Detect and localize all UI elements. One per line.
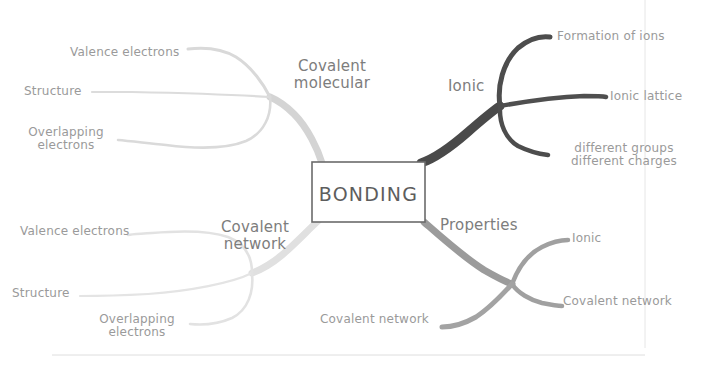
branch-line-ionic-groups — [500, 106, 548, 155]
leaf-label-properties-covalent-network-right[interactable]: Covalent network — [563, 295, 672, 308]
branch-line-properties-covalent-network-bottom — [442, 284, 512, 327]
branch-label-properties[interactable]: Properties — [440, 217, 518, 234]
leaf-label-ionic-different-groups-charges[interactable]: different groups different charges — [566, 142, 682, 169]
leaf-label-ionic-formation-of-ions[interactable]: Formation of ions — [557, 30, 665, 43]
branch-line-covalent-network-overlapping — [190, 273, 252, 324]
branch-line-ionic-lattice — [500, 96, 606, 106]
leaf-label-cn-valence-electrons[interactable]: Valence electrons — [20, 225, 129, 238]
leaf-label-cm-structure[interactable]: Structure — [24, 85, 82, 98]
branch-line-ionic-formation — [499, 37, 550, 106]
branch-line-ionic-trunk — [421, 106, 500, 163]
branch-line-properties-covalent-network — [512, 284, 562, 306]
branch-line-covalent-molecular-structure — [92, 92, 270, 97]
branch-line-properties-ionic — [512, 240, 568, 284]
branch-line-covalent-molecular-overlapping — [118, 97, 270, 148]
branch-line-covalent-molecular-trunk — [270, 97, 322, 163]
leaf-label-cm-valence-electrons[interactable]: Valence electrons — [70, 46, 179, 59]
leaf-label-cn-overlapping-electrons[interactable]: Overlapping electrons — [95, 313, 179, 340]
mindmap-canvas: BONDING Covalent molecular Ionic Covalen… — [0, 0, 706, 375]
leaf-label-cn-structure[interactable]: Structure — [12, 287, 70, 300]
leaf-label-properties-covalent-network-bottom[interactable]: Covalent network — [320, 313, 429, 326]
branch-line-covalent-molecular-valence — [188, 48, 270, 97]
branch-line-covalent-network-structure — [80, 273, 252, 296]
center-node-label: BONDING — [312, 184, 425, 205]
leaf-label-ionic-lattice[interactable]: Ionic lattice — [610, 90, 682, 103]
branch-label-ionic[interactable]: Ionic — [448, 78, 485, 95]
branch-label-covalent-network[interactable]: Covalent network — [210, 219, 300, 253]
leaf-label-properties-ionic[interactable]: Ionic — [572, 232, 601, 245]
leaf-label-cm-overlapping-electrons[interactable]: Overlapping electrons — [24, 126, 108, 153]
branch-label-covalent-molecular[interactable]: Covalent molecular — [284, 58, 380, 92]
